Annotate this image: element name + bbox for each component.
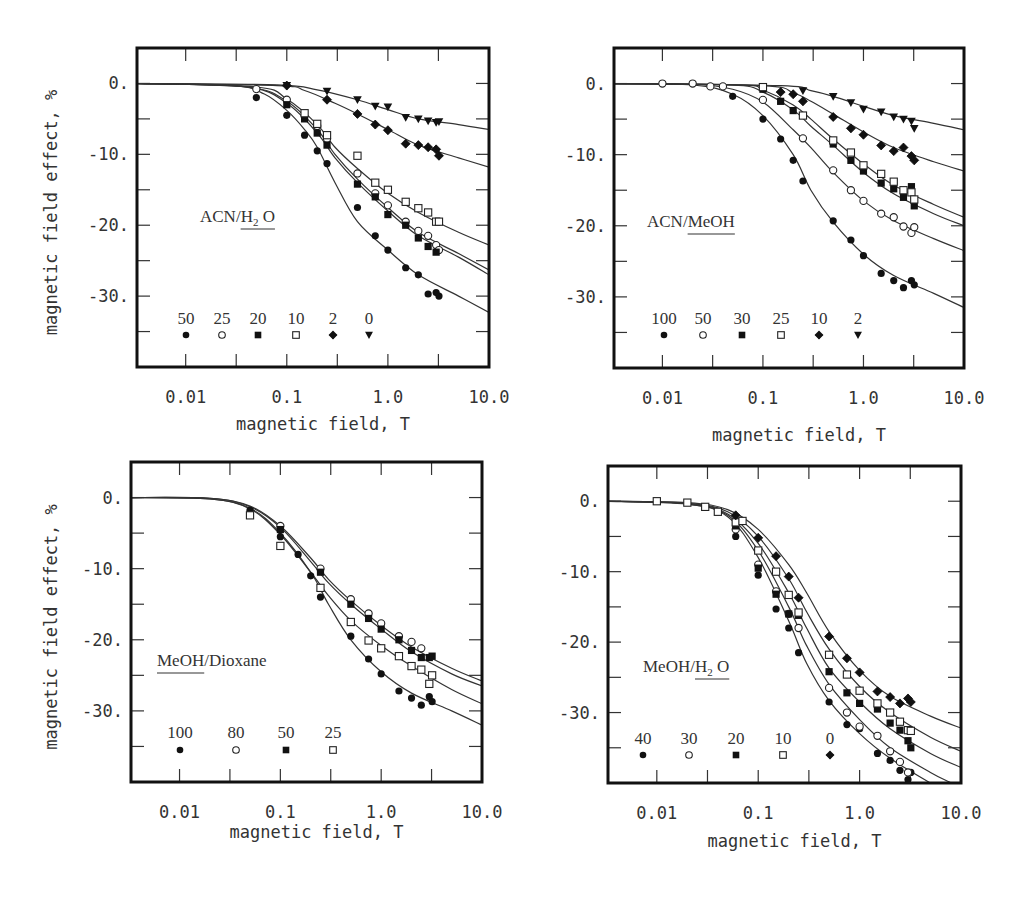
data-point bbox=[887, 748, 894, 755]
data-point bbox=[900, 284, 907, 291]
data-point bbox=[830, 217, 837, 224]
data-point bbox=[856, 700, 863, 707]
x-axis-label: magnetic field, T bbox=[236, 414, 410, 434]
data-point bbox=[414, 141, 423, 150]
x-tick-label: 0.01 bbox=[159, 802, 200, 822]
data-point bbox=[277, 533, 284, 540]
data-point bbox=[384, 202, 391, 209]
data-point bbox=[799, 112, 806, 119]
data-point bbox=[785, 591, 792, 598]
data-point bbox=[408, 662, 415, 669]
x-axis-label: magnetic field, T bbox=[712, 425, 886, 445]
data-point bbox=[425, 290, 432, 297]
plot-area bbox=[610, 80, 964, 308]
panel-bottom-right: 0.010.11.010.00.-10.-20.-30.magnetic fie… bbox=[559, 466, 981, 851]
legend-marker-open-circle-icon bbox=[700, 332, 707, 339]
data-point bbox=[347, 601, 354, 608]
legend-label: 25 bbox=[773, 309, 790, 328]
data-point bbox=[878, 210, 885, 217]
legend-label: 2 bbox=[854, 309, 863, 328]
data-point bbox=[887, 709, 894, 716]
data-point bbox=[847, 157, 854, 164]
data-point bbox=[846, 124, 855, 133]
data-point bbox=[910, 125, 919, 133]
y-tick-label: 0. bbox=[580, 491, 600, 511]
y-tick-label: -30. bbox=[82, 701, 123, 721]
y-axis-label: magnetic field effect, % bbox=[41, 504, 61, 750]
data-point bbox=[860, 252, 867, 259]
data-point bbox=[424, 143, 433, 152]
data-point bbox=[878, 170, 885, 177]
series-2 bbox=[799, 87, 919, 132]
y-tick-label: -30. bbox=[565, 287, 606, 307]
x-tick-label: 10.0 bbox=[462, 802, 503, 822]
data-point bbox=[830, 137, 837, 144]
data-point bbox=[785, 624, 792, 631]
data-point bbox=[755, 572, 762, 579]
data-point bbox=[365, 655, 372, 662]
legend-label: 100 bbox=[167, 723, 193, 742]
legend-marker-filled-circle-icon bbox=[183, 332, 190, 339]
y-tick-label: -20. bbox=[82, 630, 123, 650]
data-point bbox=[907, 744, 914, 751]
data-point bbox=[323, 95, 332, 104]
data-point bbox=[435, 218, 442, 225]
data-point bbox=[317, 594, 324, 601]
series-10 bbox=[301, 110, 443, 226]
legend-label: 0 bbox=[826, 729, 835, 748]
data-point bbox=[907, 727, 914, 734]
data-point bbox=[785, 610, 792, 617]
data-point bbox=[347, 633, 354, 640]
fit-curve-100 bbox=[127, 498, 482, 726]
data-point bbox=[317, 584, 324, 591]
legend-label: 80 bbox=[228, 723, 245, 742]
data-point bbox=[900, 187, 907, 194]
legend-label: 25 bbox=[325, 723, 342, 742]
data-point bbox=[874, 750, 881, 757]
data-point bbox=[246, 512, 253, 519]
data-point bbox=[911, 281, 918, 288]
panel-top-left: 0.010.11.010.00.-10.-20.-30.magnetic fie… bbox=[41, 48, 509, 434]
data-point bbox=[890, 178, 897, 185]
data-point bbox=[277, 526, 284, 533]
legend-marker-filled-triangle-down-icon bbox=[365, 332, 373, 339]
data-point bbox=[843, 689, 850, 696]
data-point bbox=[890, 185, 897, 192]
legend-label: 0 bbox=[365, 309, 374, 328]
legend-label: 10 bbox=[811, 309, 828, 328]
x-tick-label: 0.1 bbox=[748, 388, 779, 408]
data-point bbox=[702, 503, 709, 510]
panel-bottom-left: 0.010.11.010.00.-10.-20.-30.magnetic fie… bbox=[41, 462, 502, 842]
x-tick-label: 0.1 bbox=[265, 802, 296, 822]
data-point bbox=[719, 83, 726, 90]
data-point bbox=[908, 189, 915, 196]
legend-label: 40 bbox=[635, 729, 652, 748]
data-point bbox=[777, 135, 784, 142]
data-point bbox=[402, 264, 409, 271]
data-point bbox=[911, 224, 918, 231]
data-point bbox=[707, 83, 714, 90]
x-tick-label: 1.0 bbox=[848, 388, 879, 408]
legend-label: 100 bbox=[651, 309, 677, 328]
data-point bbox=[384, 103, 393, 111]
data-point bbox=[415, 234, 422, 241]
y-tick-label: -10. bbox=[559, 562, 600, 582]
y-tick-label: -10. bbox=[82, 559, 123, 579]
data-point bbox=[384, 246, 391, 253]
data-point bbox=[317, 569, 324, 576]
data-point bbox=[378, 670, 385, 677]
data-point bbox=[855, 668, 864, 677]
data-point bbox=[899, 116, 908, 124]
legend-label: 10 bbox=[775, 729, 792, 748]
data-point bbox=[253, 94, 260, 101]
data-point bbox=[277, 542, 284, 549]
x-axis-label: magnetic field, T bbox=[230, 822, 404, 842]
plot-area bbox=[133, 81, 489, 312]
data-point bbox=[843, 709, 850, 716]
data-point bbox=[283, 112, 290, 119]
plot-area bbox=[127, 497, 482, 725]
data-point bbox=[896, 758, 903, 765]
panels: 0.010.11.010.00.-10.-20.-30.magnetic fie… bbox=[41, 48, 984, 851]
x-tick-label: 10.0 bbox=[469, 387, 510, 407]
y-tick-label: -10. bbox=[565, 145, 606, 165]
